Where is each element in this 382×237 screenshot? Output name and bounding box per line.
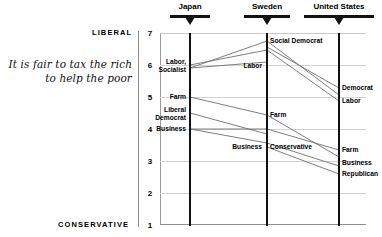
label-us-democrat: Democrat: [342, 84, 373, 92]
label-us-farm: Farm: [342, 146, 358, 154]
label-sweden-labor: Labor: [208, 62, 262, 70]
y-tick-3: 3: [144, 157, 156, 166]
label-japan-farm: Farm: [126, 93, 186, 101]
label-japan-democrat: Democrat: [122, 114, 186, 122]
axis-sweden: [266, 33, 269, 226]
chart-question-line-2: to help the poor: [4, 71, 132, 85]
column-header-sweden: Sweden: [252, 2, 282, 11]
y-tick-1: 1: [144, 221, 156, 230]
label-sweden-business: Business: [196, 143, 262, 151]
chart-question: It is fair to tax the rich to help the p…: [4, 57, 132, 85]
column-pointer-sweden: [262, 17, 272, 25]
slopegraph-chart: It is fair to tax the rich to help the p…: [0, 0, 382, 237]
column-pointer-japan: [185, 17, 195, 25]
scale-bottom-label: CONSERVATIVE: [58, 220, 129, 229]
axis-japan: [189, 33, 192, 226]
axis-united-states: [338, 33, 341, 226]
label-sweden-social-democrat: Social Democrat: [270, 37, 322, 45]
label-sweden-conservative: Conservative: [270, 143, 312, 151]
column-header-united-states: United States: [313, 2, 364, 11]
label-japan-liberal: Liberal: [126, 106, 186, 114]
label-japan-socialist: Socialist: [126, 66, 186, 74]
label-us-labor: Labor: [342, 97, 361, 105]
label-us-business: Business: [342, 159, 372, 167]
scale-top-label: LIBERAL: [92, 28, 132, 37]
column-header-japan: Japan: [178, 2, 201, 11]
label-japan-labor: Labor,: [130, 58, 186, 66]
label-sweden-farm: Farm: [270, 111, 286, 119]
chart-question-line-1: It is fair to tax the rich: [4, 57, 132, 71]
label-japan-business: Business: [124, 125, 186, 133]
column-pointer-united-states: [334, 17, 344, 25]
y-tick-2: 2: [144, 189, 156, 198]
label-us-republican: Republican: [342, 170, 378, 178]
y-tick-7: 7: [144, 29, 156, 38]
